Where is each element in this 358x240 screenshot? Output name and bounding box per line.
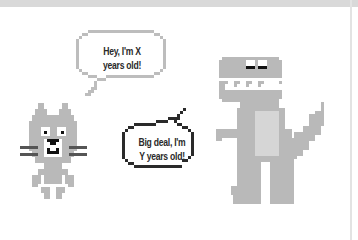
speech-line: Hey, I'm X bbox=[88, 45, 157, 59]
cat-nose bbox=[47, 139, 59, 142]
dinosaur-belly bbox=[255, 111, 279, 156]
cat-figure bbox=[20, 103, 87, 199]
speech-line: years old! bbox=[88, 59, 157, 73]
speech-line: Big deal, I'm bbox=[129, 136, 194, 150]
illustration-canvas bbox=[0, 0, 358, 240]
speech-line: Y years old! bbox=[129, 150, 194, 164]
speech-bubble-cat-text: Hey, I'm X years old! bbox=[88, 45, 157, 73]
dinosaur-figure bbox=[216, 57, 324, 204]
speech-bubble-dino-text: Big deal, I'm Y years old! bbox=[129, 136, 194, 164]
dinosaur-mouth bbox=[219, 78, 282, 81]
